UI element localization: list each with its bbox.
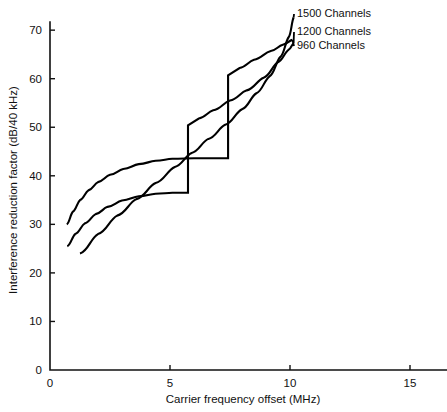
x-tick-label-5: 5 xyxy=(167,377,173,389)
x-tick-label-0: 0 xyxy=(47,377,53,389)
line-chart: 051015 010203040506070 1500 Channels1200… xyxy=(0,0,447,412)
y-tick-label-30: 30 xyxy=(29,218,42,230)
x-axis-tick-labels: 051015 xyxy=(47,377,417,389)
axis-lines xyxy=(50,22,447,370)
x-tick-label-15: 15 xyxy=(404,377,417,389)
series-line-1500-channels xyxy=(80,18,294,254)
y-tick-label-60: 60 xyxy=(29,73,42,85)
legend-label-1500-channels: 1500 Channels xyxy=(297,7,372,19)
x-axis-title: Carrier frequency offset (MHz) xyxy=(166,393,321,405)
y-axis-title: Interference reduction factor (dB/40 kHz… xyxy=(7,86,19,294)
legend-label-960-channels: 960 Channels xyxy=(297,39,365,51)
y-tick-label-50: 50 xyxy=(29,121,42,133)
y-axis-tick-labels: 010203040506070 xyxy=(29,24,42,376)
y-tick-label-40: 40 xyxy=(29,170,42,182)
y-tick-label-10: 10 xyxy=(29,315,42,327)
axes-group xyxy=(50,22,447,370)
y-tick-label-70: 70 xyxy=(29,24,42,36)
legend-label-1200-channels: 1200 Channels xyxy=(297,25,372,37)
legend-labels: 1500 Channels1200 Channels960 Channels xyxy=(297,7,372,51)
chart-container: 051015 010203040506070 1500 Channels1200… xyxy=(0,0,447,412)
y-tick-label-0: 0 xyxy=(36,364,42,376)
data-series-group xyxy=(67,18,294,254)
x-tick-label-10: 10 xyxy=(284,377,297,389)
y-tick-label-20: 20 xyxy=(29,267,42,279)
series-line-1200-channels xyxy=(67,43,293,246)
series-line-960-channels xyxy=(67,40,293,224)
